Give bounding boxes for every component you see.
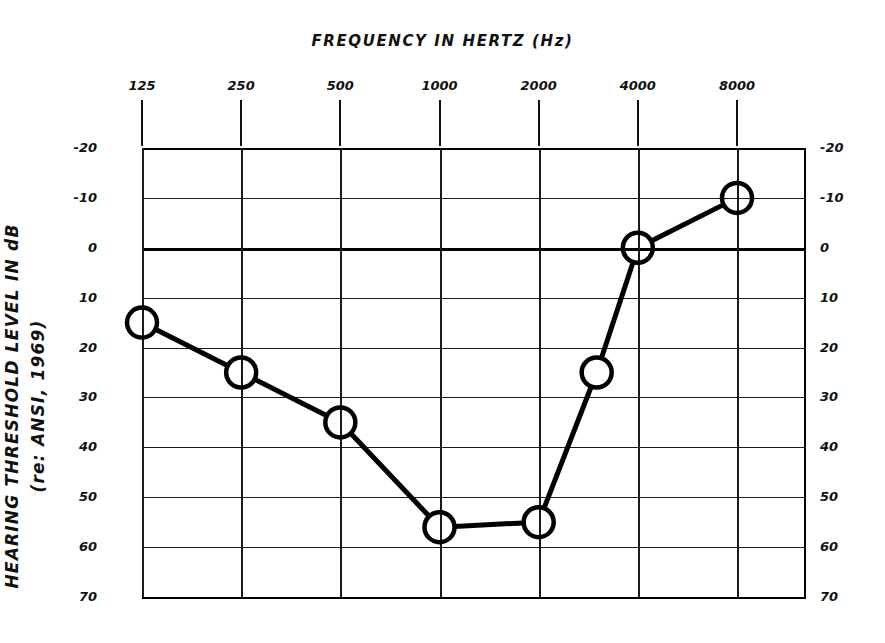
x-tick-stem-8000 [736,100,738,146]
x-tick-label-2000: 2000 [509,78,569,93]
y-tick-label-right-40: 40 [820,440,880,454]
y-tick-label-left-10: 10 [37,291,97,305]
gridline-vertical-500 [340,148,342,597]
gridline-vertical-250 [241,148,243,597]
gridline-vertical-8000 [737,148,739,597]
y-tick-label-right-60: 60 [820,540,880,554]
gridline-vertical-4000 [638,148,640,597]
chart-title: FREQUENCY IN HERTZ (Hz) [0,32,885,50]
x-tick-label-1000: 1000 [410,78,470,93]
gridline-vertical-1000 [440,148,442,597]
gridline-vertical-2000 [539,148,541,597]
y-tick-label-left-40: 40 [37,440,97,454]
x-tick-label-8000: 8000 [707,78,767,93]
y-tick-label-left-70: 70 [37,590,97,604]
x-tick-stem-250 [240,100,242,146]
gridline-horizontal-70 [142,597,806,599]
plot-frame-right-edge [804,148,806,597]
audiogram-figure: FREQUENCY IN HERTZ (Hz) HEARING THRESHOL… [0,0,885,643]
gridline-vertical-125 [142,148,144,597]
y-tick-label-left--10: -10 [37,191,97,205]
y-tick-label-left--20: -20 [37,141,97,155]
y-tick-label-right-0: 0 [820,241,880,255]
y-tick-label-right--20: -20 [820,141,880,155]
y-tick-label-left-30: 30 [37,390,97,404]
x-tick-stem-500 [339,100,341,146]
x-tick-label-250: 250 [211,78,271,93]
y-tick-label-right-30: 30 [820,390,880,404]
x-tick-stem-4000 [637,100,639,146]
y-tick-label-left-0: 0 [37,241,97,255]
y-tick-label-left-20: 20 [37,341,97,355]
x-tick-stem-125 [141,100,143,146]
y-tick-label-right-10: 10 [820,291,880,305]
y-tick-label-left-50: 50 [37,490,97,504]
x-tick-stem-1000 [439,100,441,146]
x-tick-stem-2000 [538,100,540,146]
y-tick-label-right-70: 70 [820,590,880,604]
x-tick-label-125: 125 [112,78,172,93]
x-tick-label-500: 500 [310,78,370,93]
y-tick-label-right--10: -10 [820,191,880,205]
y-axis-title-line-1: HEARING THRESHOLD LEVEL IN dB [0,171,25,641]
plot-frame [142,148,806,597]
x-tick-label-4000: 4000 [608,78,668,93]
y-tick-label-right-50: 50 [820,490,880,504]
y-tick-label-left-60: 60 [37,540,97,554]
y-tick-label-right-20: 20 [820,341,880,355]
